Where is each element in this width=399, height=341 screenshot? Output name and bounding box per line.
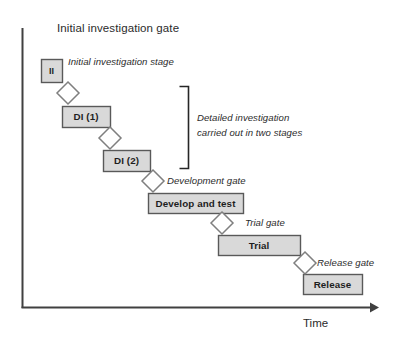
annotation-release-gate: Release gate <box>317 258 374 268</box>
bracket-note-line-2: carried out in two stages <box>197 128 302 138</box>
page-title: Initial investigation gate <box>57 23 179 35</box>
stage-label-di2: DI (2) <box>103 150 150 171</box>
stage-label-trial: Trial <box>218 235 300 255</box>
stage-label-release: Release <box>303 274 362 294</box>
x-axis-arrowhead <box>370 303 379 313</box>
gated-process-diagram: Initial investigation gate II DI (1) DI … <box>0 0 399 341</box>
stage-label-develop-test: Develop and test <box>148 193 243 213</box>
x-axis-label: Time <box>303 318 328 330</box>
annotation-trial-gate: Trial gate <box>245 218 285 228</box>
bracket-note-line-1: Detailed investigation <box>197 113 289 123</box>
gate-diamond-detailed-investigation-1[interactable] <box>99 127 121 149</box>
gate-diamond-initial-investigation[interactable] <box>57 82 79 104</box>
stage-label-ii: II <box>41 59 62 82</box>
gate-diamond-trial[interactable] <box>211 212 233 234</box>
annotation-development-gate: Development gate <box>167 176 246 186</box>
gate-diamond-development[interactable] <box>142 170 164 192</box>
annotation-initial-investigation-stage: Initial investigation stage <box>68 57 174 67</box>
detailed-investigation-bracket <box>180 87 189 169</box>
axes-group <box>22 28 380 313</box>
stage-label-di1: DI (1) <box>62 106 110 127</box>
